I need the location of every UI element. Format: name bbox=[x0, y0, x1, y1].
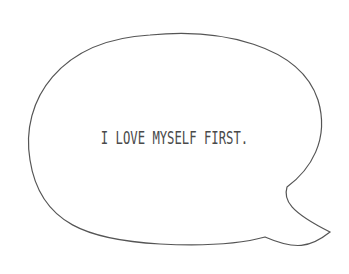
bubble-text: I LOVE MYSELF FIRST. bbox=[49, 128, 300, 148]
